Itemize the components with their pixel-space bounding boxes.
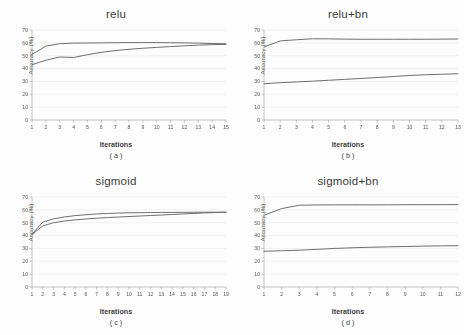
svg-text:12: 12 <box>148 291 154 297</box>
svg-text:4: 4 <box>63 291 66 297</box>
svg-text:60: 60 <box>22 207 28 213</box>
chart-canvas-a: 010203040506070123456789101112131415 <box>0 24 232 136</box>
chart-panel-c: sigmoid Accuracy (%) 0102030405060701234… <box>0 167 232 335</box>
plot-area-c: Accuracy (%) 010203040506070123456789101… <box>0 191 232 303</box>
svg-text:6: 6 <box>351 291 354 297</box>
x-axis-label-a: Iterations <box>0 140 232 149</box>
svg-text:3: 3 <box>295 124 298 130</box>
svg-text:1: 1 <box>263 291 266 297</box>
plot-area-a: Accuracy (%) 010203040506070123456789101… <box>0 24 232 136</box>
svg-text:12: 12 <box>439 124 445 130</box>
svg-text:5: 5 <box>327 124 330 130</box>
svg-text:30: 30 <box>22 245 28 251</box>
svg-text:8: 8 <box>128 124 131 130</box>
svg-text:6: 6 <box>343 124 346 130</box>
svg-text:7: 7 <box>114 124 117 130</box>
svg-text:20: 20 <box>22 258 28 264</box>
svg-text:8: 8 <box>386 291 389 297</box>
svg-text:0: 0 <box>257 117 260 123</box>
svg-text:40: 40 <box>254 232 260 238</box>
svg-text:2: 2 <box>41 291 44 297</box>
svg-text:10: 10 <box>254 104 260 110</box>
chart-panel-b: relu+bn Accuracy (%) 0102030405060701234… <box>232 0 464 167</box>
chart-title-d: sigmoid+bn <box>232 175 464 187</box>
svg-text:60: 60 <box>22 40 28 46</box>
svg-text:1: 1 <box>31 124 34 130</box>
chart-caption-b: ( b ) <box>232 151 464 160</box>
svg-text:18: 18 <box>212 291 218 297</box>
svg-text:3: 3 <box>52 291 55 297</box>
svg-text:11: 11 <box>137 291 142 297</box>
svg-text:0: 0 <box>25 284 28 290</box>
x-axis-label-c: Iterations <box>0 307 232 316</box>
svg-text:30: 30 <box>22 78 28 84</box>
svg-text:70: 70 <box>254 194 260 200</box>
svg-text:4: 4 <box>72 124 75 130</box>
svg-text:7: 7 <box>95 291 98 297</box>
svg-text:50: 50 <box>254 53 260 59</box>
svg-text:15: 15 <box>180 291 186 297</box>
svg-text:50: 50 <box>22 220 28 226</box>
svg-text:5: 5 <box>86 124 89 130</box>
svg-text:30: 30 <box>254 78 260 84</box>
chart-canvas-b: 01020304050607012345678910111213 <box>232 24 464 136</box>
svg-text:10: 10 <box>154 124 160 130</box>
svg-text:16: 16 <box>191 291 197 297</box>
svg-text:12: 12 <box>455 291 461 297</box>
svg-text:13: 13 <box>195 124 201 130</box>
svg-text:15: 15 <box>223 124 229 130</box>
svg-text:10: 10 <box>420 291 426 297</box>
svg-text:10: 10 <box>254 271 260 277</box>
svg-text:20: 20 <box>254 258 260 264</box>
x-axis-label-b: Iterations <box>232 140 464 149</box>
svg-text:20: 20 <box>254 91 260 97</box>
svg-text:4: 4 <box>311 124 314 130</box>
svg-text:50: 50 <box>254 220 260 226</box>
svg-text:9: 9 <box>392 124 395 130</box>
svg-text:14: 14 <box>209 124 215 130</box>
plot-area-b: Accuracy (%) 010203040506070123456789101… <box>232 24 464 136</box>
svg-text:8: 8 <box>376 124 379 130</box>
svg-text:70: 70 <box>22 27 28 33</box>
svg-text:3: 3 <box>298 291 301 297</box>
svg-text:60: 60 <box>254 40 260 46</box>
svg-text:9: 9 <box>141 124 144 130</box>
svg-text:2: 2 <box>44 124 47 130</box>
svg-text:70: 70 <box>254 27 260 33</box>
chart-caption-a: ( a ) <box>0 151 232 160</box>
svg-text:6: 6 <box>84 291 87 297</box>
chart-title-a: relu <box>0 8 232 20</box>
svg-text:10: 10 <box>22 271 28 277</box>
svg-text:13: 13 <box>158 291 164 297</box>
svg-text:11: 11 <box>438 291 443 297</box>
chart-caption-c: ( c ) <box>0 318 232 327</box>
svg-text:10: 10 <box>22 104 28 110</box>
svg-text:0: 0 <box>25 117 28 123</box>
svg-text:12: 12 <box>182 124 188 130</box>
svg-text:40: 40 <box>22 232 28 238</box>
svg-text:11: 11 <box>423 124 428 130</box>
svg-text:19: 19 <box>223 291 229 297</box>
svg-text:3: 3 <box>58 124 61 130</box>
figure-sheet: relu Accuracy (%) 0102030405060701234567… <box>0 0 464 335</box>
svg-text:50: 50 <box>22 53 28 59</box>
svg-text:40: 40 <box>22 65 28 71</box>
svg-text:9: 9 <box>404 291 407 297</box>
svg-text:10: 10 <box>407 124 413 130</box>
svg-text:5: 5 <box>333 291 336 297</box>
svg-text:20: 20 <box>22 91 28 97</box>
svg-text:7: 7 <box>368 291 371 297</box>
svg-text:14: 14 <box>169 291 175 297</box>
svg-text:11: 11 <box>168 124 173 130</box>
svg-text:7: 7 <box>360 124 363 130</box>
svg-text:30: 30 <box>254 245 260 251</box>
chart-title-c: sigmoid <box>0 175 232 187</box>
chart-panel-a: relu Accuracy (%) 0102030405060701234567… <box>0 0 232 167</box>
svg-text:1: 1 <box>31 291 34 297</box>
svg-text:2: 2 <box>279 124 282 130</box>
svg-text:10: 10 <box>126 291 132 297</box>
chart-canvas-d: 010203040506070123456789101112 <box>232 191 464 303</box>
svg-text:8: 8 <box>106 291 109 297</box>
chart-caption-d: ( d ) <box>232 318 464 327</box>
svg-text:13: 13 <box>455 124 461 130</box>
